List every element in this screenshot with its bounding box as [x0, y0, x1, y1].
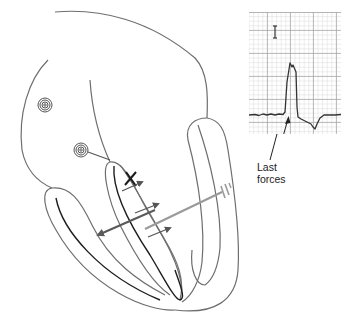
ecg-strip	[249, 12, 341, 134]
last-forces-pointer-tail	[249, 134, 289, 164]
last-forces-label-line1: Last	[257, 161, 286, 173]
last-forces-label: Last forces	[257, 161, 286, 185]
septum-walls	[105, 162, 182, 300]
right-ventricle-walls	[45, 188, 175, 310]
right-ventricle-endocardium	[56, 198, 160, 300]
last-forces-label-line2: forces	[257, 173, 286, 185]
heart-diagram: Last forces	[0, 0, 350, 332]
conduction-x-marker	[125, 172, 136, 186]
left-ventricle-walls	[175, 118, 239, 311]
av-node-icon	[74, 143, 88, 157]
sa-node-icon	[38, 98, 52, 112]
